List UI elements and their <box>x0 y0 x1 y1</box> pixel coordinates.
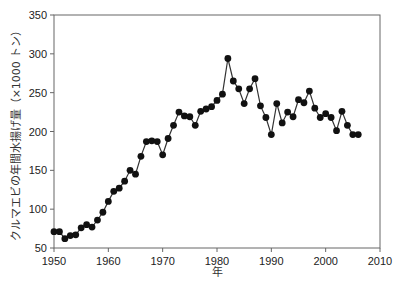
y-tick-label: 50 <box>35 242 47 254</box>
y-tick-label: 300 <box>29 48 47 60</box>
data-point: 1983: 265 <box>230 78 237 85</box>
data-point: 1962: 127 <box>116 185 123 192</box>
data-point: 1993: 225 <box>284 109 291 116</box>
data-point: 2001: 218 <box>328 114 335 121</box>
data-point: 1966: 168 <box>138 153 145 160</box>
data-point: 2006: 196 <box>355 131 362 138</box>
data-point: 1973: 225 <box>176 109 183 116</box>
data-point: 2004: 208 <box>344 122 351 129</box>
data-point: 1999: 218 <box>317 114 324 121</box>
data-point: 1998: 230 <box>311 105 318 112</box>
y-axis-label: クルマエビの年間水揚げ量（×1000 トン） <box>9 25 23 242</box>
data-point: 1987: 268 <box>252 75 259 82</box>
data-markers: 1950: 711951: 711952: 621953: 661954: 67… <box>51 55 362 242</box>
data-point: 1970: 170 <box>159 151 166 158</box>
data-point: 1963: 136 <box>121 178 128 185</box>
data-point: 1979: 232 <box>208 103 215 110</box>
x-tick-label: 1960 <box>96 255 120 267</box>
data-point: 1951: 71 <box>56 228 63 235</box>
y-tick-label: 200 <box>29 126 47 138</box>
data-point: 1959: 96 <box>100 209 107 216</box>
data-point: 1991: 236 <box>273 100 280 107</box>
data-point: 1972: 208 <box>170 122 177 129</box>
x-tick-label: 1990 <box>259 255 283 267</box>
y-tick-label: 250 <box>29 87 47 99</box>
data-point: 1996: 237 <box>301 99 308 106</box>
y-tick-label: 100 <box>29 203 47 215</box>
data-point: 1988: 233 <box>257 102 264 109</box>
data-point: 1960: 110 <box>105 198 112 205</box>
x-axis-ticks: 1950196019701980199020002010 <box>42 248 392 267</box>
data-point: 1954: 67 <box>72 231 79 238</box>
data-point: 1986: 255 <box>246 85 253 92</box>
y-tick-label: 150 <box>29 164 47 176</box>
data-point: 1981: 248 <box>219 91 226 98</box>
x-tick-label: 1950 <box>42 255 66 267</box>
data-point: 2002: 201 <box>333 127 340 134</box>
x-tick-label: 1970 <box>150 255 174 267</box>
data-point: 2000: 223 <box>322 110 329 117</box>
data-point: 2003: 226 <box>339 108 346 115</box>
data-point: 1976: 208 <box>192 122 199 129</box>
data-point: 1994: 219 <box>290 113 297 120</box>
y-axis-ticks: 50100150200250300350 <box>29 9 54 254</box>
data-point: 1958: 86 <box>94 217 101 224</box>
data-point: 1980: 240 <box>214 97 221 104</box>
data-point: 1957: 77 <box>89 224 96 231</box>
data-point: 1965: 145 <box>132 171 139 178</box>
line-chart: 50100150200250300350 1950196019701980199… <box>0 0 402 286</box>
x-tick-label: 2010 <box>368 255 392 267</box>
data-point: 1997: 252 <box>306 88 313 95</box>
data-point: 1971: 191 <box>165 135 172 142</box>
data-point: 1964: 150 <box>127 167 134 174</box>
x-tick-label: 2000 <box>313 255 337 267</box>
data-point: 1990: 196 <box>268 131 275 138</box>
x-axis-label: 年 <box>212 265 223 279</box>
data-point: 1992: 211 <box>279 120 286 127</box>
data-point: 1984: 255 <box>235 85 242 92</box>
data-point: 1989: 218 <box>263 114 270 121</box>
data-point: 1969: 187 <box>154 138 161 145</box>
data-point: 1982: 294 <box>224 55 231 62</box>
data-point: 1985: 236 <box>241 100 248 107</box>
data-point: 1975: 219 <box>186 113 193 120</box>
y-tick-label: 350 <box>29 9 47 21</box>
